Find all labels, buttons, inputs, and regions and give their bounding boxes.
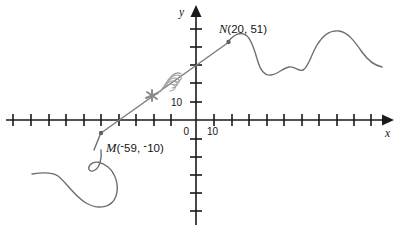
x-tick-label-10: 10 xyxy=(207,126,219,137)
point-m-close-paren: ) xyxy=(160,142,164,154)
m-leader-line xyxy=(94,135,100,150)
hand-drawn-curve-right xyxy=(228,31,382,75)
point-label-m: M(-59, -10) xyxy=(105,139,164,155)
origin-label: 0 xyxy=(183,126,189,137)
hand-drawn-curve-lower-left xyxy=(32,150,117,207)
point-m-y: 10 xyxy=(147,142,160,154)
point-m-name: M xyxy=(105,141,117,155)
x-axis-label: x xyxy=(384,127,391,139)
y-axis xyxy=(190,5,202,225)
graph-figure: 10 0 10 y x N(20, 51) M(-59, -10) xyxy=(0,0,400,227)
point-n-x: 20 xyxy=(231,23,244,35)
x-axis-arrow-icon xyxy=(382,115,394,126)
y-axis-arrow-icon xyxy=(191,5,202,17)
y-tick-label-10: 10 xyxy=(171,97,183,108)
x-axis xyxy=(6,114,394,126)
coordinate-plane-svg: 10 0 10 y x N(20, 51) M(-59, -10) xyxy=(0,0,400,227)
point-dot-n xyxy=(226,40,230,44)
point-n-close-paren: ) xyxy=(263,23,267,35)
y-axis-label: y xyxy=(178,6,185,19)
point-n-y: 51 xyxy=(250,23,263,35)
point-m-x: 59 xyxy=(124,142,137,154)
point-dot-m xyxy=(99,131,103,135)
point-label-n: N(20, 51) xyxy=(218,22,267,36)
